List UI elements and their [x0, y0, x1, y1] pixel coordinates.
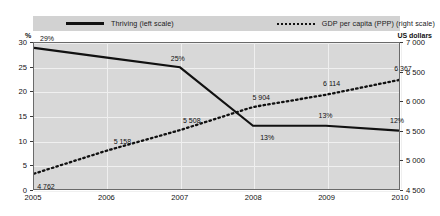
- x-axis-tick-label: 2010: [375, 193, 425, 202]
- left-axis-tick-label: 25: [0, 62, 27, 71]
- left-axis-tickmark: [30, 116, 33, 117]
- data-label-gdp: 5 508: [183, 117, 201, 124]
- left-axis-tick-label: 5: [0, 161, 27, 170]
- right-axis-tickmark: [400, 190, 403, 191]
- right-axis-tickmark: [400, 42, 403, 43]
- right-axis-tickmark: [400, 131, 403, 132]
- right-axis-tickmark: [400, 160, 403, 161]
- left-axis-tickmark: [30, 165, 33, 166]
- x-axis-tick-label: 2009: [302, 193, 352, 202]
- x-axis-tick-label: 2005: [8, 193, 58, 202]
- x-axis-tick-label: 2006: [81, 193, 131, 202]
- data-label-thriving: 13%: [319, 111, 333, 118]
- x-axis-tick-label: 2007: [155, 193, 205, 202]
- data-label-gdp: 6 114: [323, 80, 340, 87]
- data-label-thriving: 12%: [390, 116, 404, 123]
- legend-label-gdp: GDP per capita (PPP) (right scale): [322, 19, 435, 28]
- left-axis-tick-label: 30: [0, 38, 27, 47]
- data-label-thriving: 25%: [171, 54, 185, 61]
- right-axis-tick-label: 5 500: [406, 126, 440, 135]
- data-label-gdp: 4 762: [37, 183, 55, 190]
- dotted-line-icon: [277, 23, 315, 25]
- chart-legend: Thriving (left scale) GDP per capita (PP…: [33, 16, 400, 31]
- left-axis-tick-label: 20: [0, 87, 27, 96]
- right-axis-tick-label: 5 000: [406, 156, 440, 165]
- legend-item-gdp: GDP per capita (PPP) (right scale): [277, 19, 435, 28]
- gridline-horizontal: [34, 191, 399, 192]
- left-axis-tickmark: [30, 42, 33, 43]
- left-axis-tick-label: 15: [0, 112, 27, 121]
- left-axis-tickmark: [30, 67, 33, 68]
- x-axis-tick-label: 2008: [228, 193, 278, 202]
- series-lines: [34, 43, 399, 189]
- data-label-thriving: 29%: [40, 34, 54, 41]
- right-axis-tickmark: [400, 101, 403, 102]
- left-axis-tickmark: [30, 91, 33, 92]
- left-axis-tick-label: 10: [0, 136, 27, 145]
- data-label-gdp: 5 158: [114, 138, 132, 145]
- data-label-thriving: 13%: [260, 133, 274, 140]
- line-thriving: [34, 48, 399, 131]
- data-label-gdp: 6 367: [394, 65, 412, 72]
- left-axis-tickmark: [30, 190, 33, 191]
- chart-plot-area: [33, 42, 400, 190]
- right-axis-tick-label: 6 000: [406, 97, 440, 106]
- left-axis-tickmark: [30, 141, 33, 142]
- legend-item-thriving: Thriving (left scale): [66, 19, 174, 28]
- solid-line-icon: [66, 22, 104, 24]
- data-label-gdp: 5 904: [252, 93, 270, 100]
- right-axis-tick-label: 7 000: [406, 38, 440, 47]
- legend-label-thriving: Thriving (left scale): [111, 19, 174, 28]
